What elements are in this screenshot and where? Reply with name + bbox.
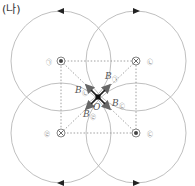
wire-a: [57, 57, 65, 65]
wire-label-a: ㉠: [46, 58, 52, 66]
label-b-a: B㉠: [104, 71, 118, 83]
wire-b: [132, 57, 140, 65]
wire-c: [132, 129, 140, 137]
wire-label-d: ㉣: [44, 130, 50, 138]
dot-out-icon: [59, 59, 63, 63]
magnetic-field-diagram: B㉠ B㉡ B㉢ B㉣ O ㉠ ㉡ ㉣ ㉢: [0, 0, 195, 186]
arrow-right-icon: [133, 180, 140, 186]
label-b-b: B㉡: [74, 85, 88, 97]
center-label: O: [93, 102, 101, 112]
center-point: [96, 95, 101, 100]
wire-label-c: ㉢: [147, 130, 153, 138]
arrow-left-icon: [57, 8, 64, 14]
arrow-right-icon: [133, 8, 140, 14]
arrow-left-icon: [57, 180, 64, 186]
wire-d: [57, 129, 65, 137]
wire-label-b: ㉡: [147, 58, 153, 66]
label-b-c: B㉢: [111, 98, 125, 110]
dot-out-icon: [134, 131, 138, 135]
